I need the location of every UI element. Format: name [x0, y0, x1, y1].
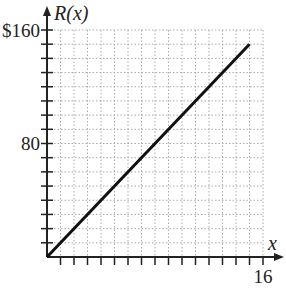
x-tick-label-16: 16 — [254, 266, 273, 287]
y-tick-label-80: 80 — [21, 133, 40, 154]
x-axis-label: x — [267, 232, 277, 254]
chart-canvas: R(x) x $160 80 16 — [0, 0, 286, 292]
revenue-line — [47, 44, 250, 257]
y-tick-label-160: $160 — [2, 20, 40, 41]
x-axis-arrow-icon — [274, 253, 284, 261]
y-axis-label: R(x) — [53, 2, 89, 25]
y-axis-arrow-icon — [43, 6, 51, 16]
